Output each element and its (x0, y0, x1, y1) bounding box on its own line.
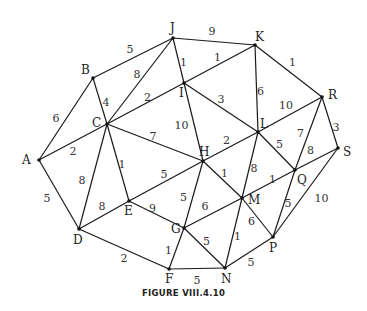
weighted-graph: 6255482718911103611025837810551892615116… (0, 0, 367, 311)
weight-label-k-r: 1 (289, 56, 296, 69)
node-i (182, 81, 186, 85)
weight-label-g-m: 6 (202, 200, 209, 213)
weight-label-j-k: 9 (209, 25, 216, 38)
node-c (105, 122, 109, 126)
weight-label-k-l: 6 (257, 85, 264, 98)
weight-label-b-c: 4 (103, 96, 110, 109)
weight-label-c-j: 8 (134, 68, 141, 81)
weight-label-m-q: 1 (269, 173, 276, 186)
node-label-s: S (343, 145, 351, 159)
figure-caption: FIGURE VIII.4.10 (0, 288, 367, 298)
edge-g-m (184, 198, 242, 228)
edge-j-k (173, 38, 255, 45)
weight-label-g-n: 5 (203, 235, 210, 248)
edge-f-n (169, 268, 225, 269)
weight-label-c-e: 1 (119, 158, 126, 171)
node-label-f: F (165, 272, 173, 286)
node-label-k: K (255, 30, 265, 44)
node-f (167, 267, 171, 271)
weight-label-s-q: 8 (307, 144, 314, 157)
node-g (182, 226, 186, 230)
edge-a-b (39, 78, 93, 160)
edge-h-e (129, 161, 203, 201)
node-label-a: A (21, 153, 31, 167)
node-label-g: G (171, 222, 181, 236)
weight-label-l-q: 5 (276, 138, 283, 151)
node-label-l: L (260, 117, 268, 131)
node-n (223, 266, 227, 270)
edge-i-l (184, 83, 258, 132)
weight-label-n-p: 5 (248, 256, 255, 269)
node-a (37, 158, 41, 162)
weight-label-q-p: 5 (285, 197, 292, 210)
weight-label-c-i: 2 (144, 91, 151, 104)
weight-label-r-q: 7 (297, 127, 304, 140)
node-label-r: R (328, 88, 338, 102)
weight-label-j-i: 1 (180, 56, 187, 69)
node-m (240, 196, 244, 200)
node-d (77, 227, 81, 231)
node-label-j: J (168, 21, 175, 35)
node-s (336, 146, 340, 150)
node-label-h: H (199, 145, 209, 159)
node-h (201, 159, 205, 163)
node-j (171, 36, 175, 40)
weight-label-g-f: 1 (165, 244, 172, 257)
weight-label-r-s: 3 (333, 121, 340, 134)
node-label-p: P (269, 241, 277, 255)
weight-label-c-h: 7 (150, 130, 157, 143)
node-label-m: M (248, 193, 260, 207)
weight-label-l-h: 2 (223, 134, 230, 147)
edge-g-n (184, 228, 225, 268)
node-p (271, 235, 275, 239)
node-label-i: I (179, 86, 184, 100)
weight-label-l-m: 8 (251, 162, 258, 175)
edge-c-i (107, 83, 184, 124)
weight-label-s-p: 10 (315, 192, 329, 205)
node-q (293, 168, 297, 172)
weight-label-d-f: 2 (121, 252, 128, 265)
node-label-b: B (81, 63, 90, 77)
weight-label-i-h: 10 (175, 119, 189, 132)
node-label-q: Q (297, 173, 307, 187)
weight-label-l-r: 10 (279, 99, 293, 112)
edge-c-j (107, 38, 173, 124)
weight-label-e-d: 8 (99, 200, 106, 213)
weight-label-b-j: 5 (127, 43, 134, 56)
edge-l-h (203, 132, 258, 161)
weight-label-m-n: 1 (234, 230, 241, 243)
weight-label-i-l: 3 (218, 93, 225, 106)
node-label-d: D (73, 233, 83, 247)
weight-label-i-k: 1 (214, 51, 221, 64)
weight-label-a-d: 5 (44, 192, 51, 205)
weight-label-a-b: 6 (53, 112, 60, 125)
node-label-n: N (221, 272, 232, 286)
weight-label-f-n: 5 (194, 274, 201, 287)
node-label-c: C (92, 116, 101, 130)
weight-label-h-g: 5 (180, 191, 187, 204)
weight-label-e-g: 9 (149, 202, 156, 215)
weight-label-a-c: 2 (70, 145, 77, 158)
weight-label-h-e: 5 (161, 168, 168, 181)
weight-label-h-m: 1 (221, 167, 228, 180)
edge-k-r (255, 45, 322, 97)
node-b (91, 76, 95, 80)
node-label-e: E (124, 204, 133, 218)
weight-label-m-p: 6 (248, 215, 255, 228)
weight-label-c-d: 8 (79, 174, 86, 187)
node-e (127, 199, 131, 203)
node-r (320, 95, 324, 99)
